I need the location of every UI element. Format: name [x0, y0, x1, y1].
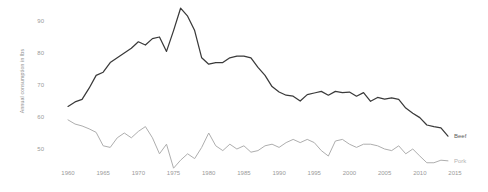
line-chart: Annual consumption in lbs 5060708090 196…	[0, 0, 488, 192]
plot-area	[0, 0, 488, 192]
series-line-pork	[68, 120, 448, 168]
series-line-beef	[68, 8, 448, 136]
series-label-beef: Beef	[454, 133, 466, 139]
series-label-pork: Pork	[454, 158, 466, 164]
